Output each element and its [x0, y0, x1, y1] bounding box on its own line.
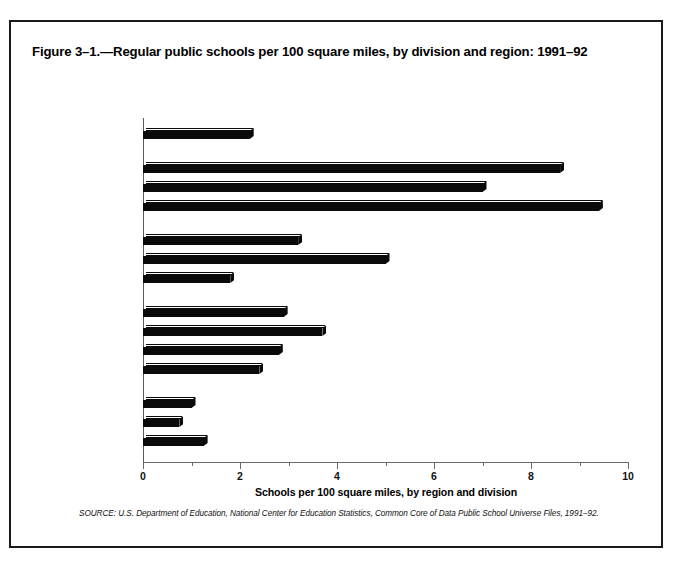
bar	[143, 344, 283, 356]
x-axis-major-tick	[240, 462, 241, 469]
bar	[143, 397, 196, 409]
bar-front-face	[143, 184, 483, 192]
x-axis-minor-tick	[483, 462, 484, 466]
x-axis-tick-label: 10	[622, 470, 634, 482]
bar-front-face	[143, 328, 322, 336]
bar	[143, 128, 254, 140]
bar-front-face	[143, 131, 250, 139]
x-axis-tick-label: 4	[334, 470, 340, 482]
bar	[143, 272, 234, 284]
chart-plot-area: 0246810 UNITED STATESNORTHEASTNew Englan…	[11, 22, 665, 550]
bar	[143, 181, 487, 193]
bar	[143, 416, 183, 428]
bar	[143, 200, 603, 212]
bar-front-face	[143, 347, 279, 355]
x-axis-major-tick	[337, 462, 338, 469]
x-axis-major-tick	[628, 462, 629, 469]
x-axis-minor-tick	[386, 462, 387, 466]
bar-front-face	[143, 275, 230, 283]
bar-front-face	[143, 400, 192, 408]
bar-front-face	[143, 438, 204, 446]
bar	[143, 253, 390, 265]
bar-front-face	[143, 366, 259, 374]
x-axis-major-tick	[434, 462, 435, 469]
bar	[143, 325, 326, 337]
x-axis-minor-tick	[289, 462, 290, 466]
x-axis-major-tick	[143, 462, 144, 469]
figure-frame: Figure 3–1.—Regular public schools per 1…	[9, 20, 663, 548]
x-axis-tick-label: 0	[140, 470, 146, 482]
bar-front-face	[143, 203, 599, 211]
x-axis-tick-label: 8	[528, 470, 534, 482]
bar	[143, 363, 263, 375]
bar-front-face	[143, 237, 298, 245]
x-axis-tick-label: 2	[237, 470, 243, 482]
x-axis-minor-tick	[580, 462, 581, 466]
x-axis-title: Schools per 100 square miles, by region …	[143, 486, 629, 498]
x-axis-minor-tick	[192, 462, 193, 466]
bar-front-face	[143, 309, 284, 317]
bar	[143, 306, 288, 318]
bar-front-face	[143, 165, 560, 173]
x-axis-tick-label: 6	[431, 470, 437, 482]
source-note: SOURCE: U.S. Department of Education, Na…	[79, 509, 639, 518]
x-axis-major-tick	[531, 462, 532, 469]
bar-front-face	[143, 419, 179, 427]
bar	[143, 234, 302, 246]
bar	[143, 435, 208, 447]
bar	[143, 162, 564, 174]
bar-front-face	[143, 256, 386, 264]
